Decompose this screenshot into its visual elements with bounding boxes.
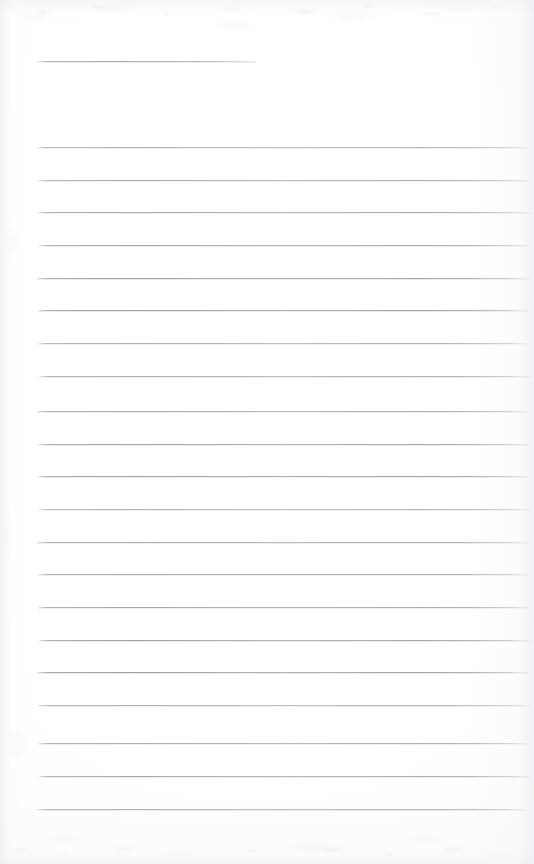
ruled-line: [38, 180, 529, 181]
ruled-line: [38, 212, 530, 213]
ruled-line: [37, 542, 529, 543]
scanned-page: [0, 0, 534, 864]
writing-area[interactable]: [0, 0, 534, 864]
ruled-line: [37, 809, 527, 810]
ruled-lines-layer: [0, 0, 534, 864]
ruled-line: [38, 574, 529, 575]
ruled-line: [37, 278, 529, 279]
ruled-line: [38, 705, 530, 706]
ruled-line: [39, 776, 531, 777]
ruled-line: [38, 743, 529, 744]
ruled-line: [38, 607, 530, 608]
ruled-line: [37, 672, 528, 673]
ruled-line: [37, 411, 528, 412]
ruled-line: [38, 310, 528, 311]
ruled-line: [38, 444, 530, 445]
ruled-line: [39, 376, 531, 377]
ruled-line: [39, 245, 530, 246]
ruled-line: [38, 476, 528, 477]
ruled-line: [39, 509, 530, 510]
header-rule-line: [37, 61, 256, 62]
ruled-line: [38, 343, 529, 344]
ruled-line: [39, 640, 529, 641]
ruled-line: [37, 147, 527, 148]
